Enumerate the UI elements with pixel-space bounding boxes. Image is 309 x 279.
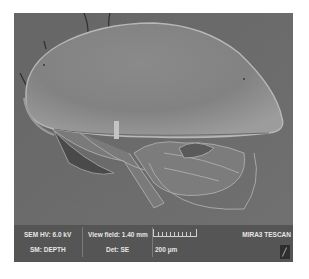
sm-label: SM: DEPTH — [30, 246, 66, 253]
scale-label: 200 µm — [155, 246, 177, 253]
scale-bar — [153, 229, 197, 237]
sem-info-bar: SEM HV: 6.0 kV SM: DEPTH View field: 1.4… — [14, 225, 293, 262]
spine — [114, 121, 119, 139]
surface-pit — [43, 64, 45, 66]
info-divider — [82, 227, 83, 257]
tescan-logo-icon — [280, 245, 290, 259]
hv-label: SEM HV: 6.0 kV — [24, 231, 71, 238]
detector-label: Det: SE — [106, 246, 129, 253]
sem-image-frame: SEM HV: 6.0 kV SM: DEPTH View field: 1.4… — [14, 13, 293, 262]
sem-micrograph — [14, 13, 293, 225]
surface-pit — [243, 78, 245, 80]
instrument-label: MIRA3 TESCAN — [242, 231, 291, 238]
view-field-label: View field: 1.40 mm — [88, 231, 148, 238]
